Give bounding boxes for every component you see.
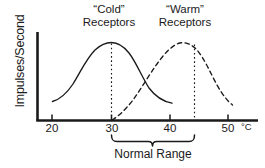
x-tick-label-30: 30 (99, 122, 125, 135)
thermoreceptor-response-chart: Impulses/Second “Cold” Receptors “Warm” … (0, 0, 265, 168)
normal-range-brace (112, 135, 195, 146)
cold-receptors-label-line1: “Cold” (74, 3, 144, 16)
normal-range-label: Normal Range (103, 148, 203, 161)
warm-receptors-label: “Warm” Receptors (150, 3, 220, 29)
x-axis-unit-label: °C (241, 122, 252, 133)
warm-receptors-label-line1: “Warm” (150, 3, 220, 16)
cold-receptors-label: “Cold” Receptors (74, 3, 144, 29)
x-tick-label-40: 40 (157, 122, 183, 135)
y-axis-label: Impulses/Second (13, 15, 27, 108)
x-tick-label-50: 50 (215, 122, 241, 135)
cold-receptors-label-line2: Receptors (74, 16, 144, 29)
x-tick-label-20: 20 (39, 122, 65, 135)
y-axis-label-wrapper: Impulses/Second (10, 0, 28, 126)
warm-receptors-label-line2: Receptors (150, 16, 220, 29)
cold-receptors-curve (53, 43, 173, 104)
